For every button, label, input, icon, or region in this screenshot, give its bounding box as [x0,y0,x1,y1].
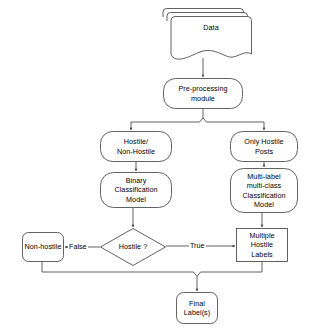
edge-label-false: False [68,242,88,251]
edge-nonhostile-to-final [42,262,197,291]
node-shape-final-labels [177,293,218,324]
node-shape-multiple-hostile-labels [237,229,288,262]
node-shape-multilabel-model [231,169,298,213]
edge-preprocessing-split [131,109,203,122]
node-shape-non-hostile [23,233,64,262]
flowchart-canvas: Non-hostile --> Multiple Hostile Labels … [0,0,310,333]
edge-label-true: True [189,241,206,250]
node-shape-hostile-nonhostile [101,132,172,162]
flowchart-svg: Non-hostile --> Multiple Hostile Labels … [0,0,310,333]
edge-preprocessing-split-right [203,118,264,122]
node-shape-hostile-decision [101,229,166,266]
node-shape-binary-model [101,173,172,208]
node-shape-only-hostile-posts [231,132,298,162]
node-shape-preprocessing [164,79,243,109]
edge-multiplelabels-to-final [197,262,262,277]
node-shape-data [163,9,252,60]
